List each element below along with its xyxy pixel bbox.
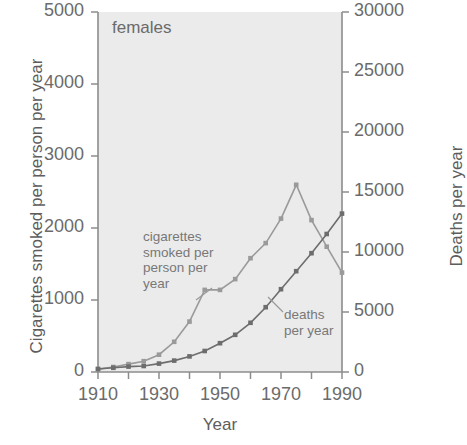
y-axis-left-tick-label: 1000 [24, 288, 84, 309]
data-point [294, 269, 299, 274]
x-axis-tick-label: 1930 [129, 384, 189, 405]
data-point [126, 364, 131, 369]
x-axis-tick-label: 1950 [190, 384, 250, 405]
data-point [340, 270, 345, 275]
data-point [279, 287, 284, 292]
y-axis-right-title: Deaths per year [447, 66, 467, 346]
y-axis-right-tick-label: 20000 [354, 120, 424, 141]
y-axis-right-tick-label: 10000 [354, 240, 424, 261]
data-point [141, 364, 146, 369]
x-axis-tick-label: 1910 [68, 384, 128, 405]
y-axis-right-tick-label: 15000 [354, 180, 424, 201]
y-axis-left-tick-label: 4000 [24, 72, 84, 93]
data-point [111, 366, 116, 371]
data-point [202, 349, 207, 354]
y-axis-left-ticks [91, 12, 98, 372]
x-axis-title: Year [98, 415, 342, 435]
data-point [218, 341, 223, 346]
y-axis-left-tick-label: 3000 [24, 144, 84, 165]
x-axis-tick-label: 1990 [312, 384, 372, 405]
data-point [324, 244, 329, 249]
data-point [248, 321, 253, 326]
data-point [172, 340, 177, 345]
data-point [294, 183, 299, 188]
data-point [233, 277, 238, 282]
data-point [279, 216, 284, 221]
data-point [141, 359, 146, 364]
y-axis-right-tick-label: 0 [354, 360, 424, 381]
y-axis-right-tick-label: 25000 [354, 60, 424, 81]
data-point [309, 251, 314, 256]
y-axis-right-tick-label: 30000 [354, 0, 424, 21]
data-point [96, 367, 101, 372]
data-point [187, 319, 192, 324]
y-axis-left-tick-label: 0 [24, 360, 84, 381]
data-point [172, 358, 177, 363]
y-axis-left-tick-label: 2000 [24, 216, 84, 237]
y-axis-left-tick-label: 5000 [24, 0, 84, 21]
data-point [340, 211, 345, 216]
data-point [157, 361, 162, 366]
data-point [324, 232, 329, 237]
y-axis-right-tick-label: 5000 [354, 300, 424, 321]
x-axis-ticks [98, 372, 342, 379]
data-point [309, 218, 314, 223]
y-axis-right-ticks [342, 12, 349, 372]
x-axis-tick-label: 1970 [251, 384, 311, 405]
data-point [218, 288, 223, 293]
data-point [263, 305, 268, 310]
data-point [187, 354, 192, 359]
data-point [233, 333, 238, 338]
data-point [248, 256, 253, 261]
series-label-cigarettes: cigarettes smoked per person per year [143, 229, 214, 291]
data-point [263, 241, 268, 246]
data-point [157, 352, 162, 357]
series-label-deaths: deaths per year [284, 307, 334, 338]
panel-title: females [112, 18, 172, 38]
